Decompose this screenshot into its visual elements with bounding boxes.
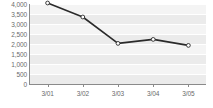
series-line-group	[30, 4, 206, 84]
y-tick-label: 3,500	[0, 11, 27, 18]
x-tick-mark	[48, 84, 49, 87]
data-point-marker	[46, 1, 50, 5]
x-tick-label: 3/05	[182, 90, 194, 98]
line-chart: 05001,0001,5002,0002,5003,0003,5004,000 …	[0, 0, 213, 108]
data-point-marker	[81, 15, 85, 19]
series-line	[48, 3, 189, 45]
x-tick-mark	[118, 84, 119, 87]
y-tick-label: 4,000	[0, 1, 27, 8]
y-axis-line	[29, 4, 30, 85]
x-tick-mark	[153, 84, 154, 87]
x-tick-label: 3/02	[77, 90, 89, 98]
x-tick-mark	[188, 84, 189, 87]
y-tick-label: 1,000	[0, 61, 27, 68]
x-tick-mark	[83, 84, 84, 87]
data-point-marker	[151, 38, 155, 42]
x-tick-label: 3/01	[41, 90, 53, 98]
data-point-marker	[116, 42, 120, 46]
y-tick-label: 500	[0, 71, 27, 78]
y-tick-label: 2,500	[0, 31, 27, 38]
y-tick-label: 2,000	[0, 41, 27, 48]
y-tick-label: 0	[0, 81, 27, 88]
data-point-marker	[187, 44, 191, 48]
x-tick-label: 3/03	[112, 90, 124, 98]
y-axis-tick-labels: 05001,0001,5002,0002,5003,0003,5004,000	[0, 0, 27, 108]
x-tick-label: 3/04	[147, 90, 159, 98]
y-tick-label: 1,500	[0, 51, 27, 58]
y-tick-label: 3,000	[0, 21, 27, 28]
